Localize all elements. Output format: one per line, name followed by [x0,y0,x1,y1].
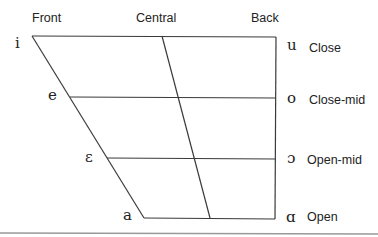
close-mid-label: Close-mid [309,94,365,107]
front-label: Front [32,11,61,25]
central-label: Central [136,11,176,25]
vowel-i: i [15,36,20,51]
central-line [162,36,210,218]
bottom-rule [0,233,378,234]
vowel-e: e [48,88,57,103]
back-label: Back [251,11,279,25]
vowel-a: a [123,208,132,223]
vowel-chart-lines [0,0,378,237]
open-line [144,218,275,219]
close-line [32,36,276,37]
open-mid-label: Open-mid [307,154,362,167]
open-mid-line [107,158,276,159]
open-label: Open [307,211,338,224]
vowel-open-e: ɛ [85,150,93,165]
close-label: Close [309,42,341,55]
close-mid-line [70,97,276,98]
vowel-open-o: ɔ [287,151,295,166]
vowel-script-a: ɑ [286,210,296,225]
front-edge [32,36,144,218]
vowel-o: o [287,91,296,106]
back-edge [275,37,276,219]
vowel-u: u [287,38,297,53]
